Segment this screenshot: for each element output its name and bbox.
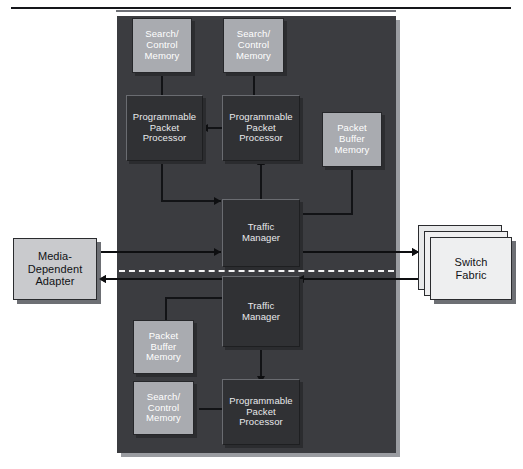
block-traffic-manager-2[interactable]: Traffic Manager bbox=[222, 276, 300, 347]
pbm2-line3: Memory bbox=[146, 352, 181, 363]
block-search-control-memory-2[interactable]: Search/ Control Memory bbox=[223, 18, 284, 73]
mda-line3: Adapter bbox=[28, 275, 83, 288]
scm3-line3: Memory bbox=[146, 413, 181, 424]
tm1-line2: Manager bbox=[242, 233, 280, 244]
scm1-line3: Memory bbox=[145, 51, 180, 62]
block-search-control-memory-1[interactable]: Search/ Control Memory bbox=[132, 18, 192, 73]
tm2-line2: Manager bbox=[242, 312, 280, 323]
connector-switch-fabric-to-tm2-line bbox=[302, 278, 418, 280]
pbm1-line3: Memory bbox=[335, 145, 370, 156]
ppp1-line1: Programmable bbox=[133, 112, 197, 123]
connector-tm2-to-pbm2-horizontal bbox=[165, 297, 223, 299]
connector-tm1-to-ppp2-vertical bbox=[260, 163, 262, 199]
connector-scm3-to-ppp3 bbox=[199, 408, 223, 410]
block-programmable-packet-processor-2[interactable]: Programmable Packet Processor bbox=[222, 95, 300, 161]
mda-line1: Media- bbox=[28, 250, 83, 263]
block-media-dependent-adapter[interactable]: Media- Dependent Adapter bbox=[13, 238, 97, 300]
switch-fabric-line1: Switch bbox=[455, 256, 488, 269]
block-packet-buffer-memory-2[interactable]: Packet Buffer Memory bbox=[133, 320, 194, 374]
block-switch-fabric[interactable]: Switch Fabric bbox=[430, 237, 512, 300]
connector-ppp1-to-tm1-arrowhead bbox=[214, 197, 221, 205]
ingress-egress-separator bbox=[119, 270, 394, 272]
ppp3-line3: Processor bbox=[229, 417, 293, 428]
arrowhead-into-media-dependent-adapter bbox=[99, 275, 106, 283]
block-programmable-packet-processor-3[interactable]: Programmable Packet Processor bbox=[222, 379, 300, 445]
connector-scm2-to-ppp2 bbox=[253, 73, 255, 95]
mda-line2: Dependent bbox=[28, 263, 83, 276]
connector-mda-to-tm1-line bbox=[97, 251, 221, 253]
scm2-line3: Memory bbox=[236, 51, 271, 62]
ppp1-line3: Processor bbox=[133, 133, 197, 144]
connector-scm1-to-ppp1 bbox=[161, 73, 163, 95]
tm2-line1: Traffic bbox=[242, 301, 280, 312]
connector-ppp1-to-tm1-vertical bbox=[161, 160, 163, 202]
pbm2-line1: Packet bbox=[146, 331, 181, 342]
connector-mda-to-tm1-arrowhead bbox=[214, 248, 221, 256]
arrowhead-into-switch-fabric bbox=[412, 248, 419, 256]
scm3-line1: Search/ bbox=[146, 392, 181, 403]
connector-tm2-to-pbm2-vertical bbox=[165, 297, 167, 320]
connector-tm2-to-mda-line bbox=[104, 278, 222, 280]
ppp2-line3: Processor bbox=[229, 133, 293, 144]
figure-caption-fragment bbox=[14, 0, 314, 6]
header-divider-rule bbox=[11, 7, 511, 9]
header-divider-rule-shadow bbox=[116, 10, 396, 12]
connector-pbm1-to-tm1-horizontal bbox=[300, 213, 353, 215]
connector-tm1-to-switch-fabric-line bbox=[300, 251, 418, 253]
switch-fabric-line2: Fabric bbox=[455, 269, 488, 282]
connector-ppp1-to-tm1-horizontal bbox=[161, 200, 221, 202]
ppp3-line1: Programmable bbox=[229, 396, 293, 407]
figure-network-processor-architecture: Search/ Control Memory Search/ Control M… bbox=[0, 0, 523, 469]
connector-pbm1-vertical bbox=[351, 167, 353, 215]
block-traffic-manager-1[interactable]: Traffic Manager bbox=[222, 199, 300, 267]
ppp2-line1: Programmable bbox=[229, 112, 293, 123]
block-packet-buffer-memory-1[interactable]: Packet Buffer Memory bbox=[322, 112, 382, 167]
connector-tm2-ppp3-vertical bbox=[260, 347, 262, 379]
block-programmable-packet-processor-1[interactable]: Programmable Packet Processor bbox=[126, 95, 203, 161]
block-search-control-memory-3[interactable]: Search/ Control Memory bbox=[133, 381, 194, 435]
